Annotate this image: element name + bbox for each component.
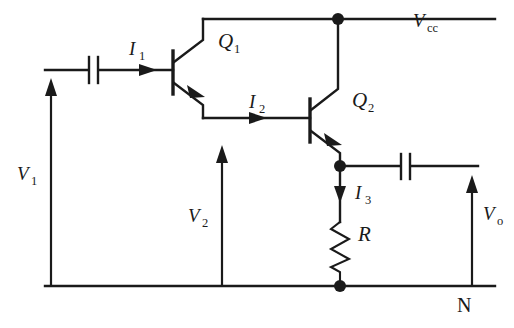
i1-symbol: I	[128, 38, 137, 59]
q2-symbol: Q	[352, 88, 367, 112]
q1-subscript: 1	[234, 42, 240, 56]
i1-label-group: I 1	[128, 38, 145, 63]
vo-symbol: V	[483, 203, 497, 224]
q2-subscript: 2	[368, 101, 374, 115]
i3-symbol: I	[354, 182, 363, 203]
circuit-diagram-canvas: V cc Q 1 Q 2 I 1 I 2 I 3 R	[0, 0, 514, 328]
vcc-subscript: cc	[427, 21, 439, 35]
i1-arrowhead	[139, 64, 157, 76]
vcc-label-group: V cc	[413, 10, 439, 35]
supply-rail-group	[203, 13, 495, 25]
resistor-zigzag	[331, 222, 349, 286]
v2-symbol: V	[188, 205, 202, 226]
q2-collector-lead	[311, 19, 338, 110]
resistor-branch-group	[331, 166, 349, 292]
i3-subscript: 3	[365, 193, 371, 207]
v2-subscript: 2	[202, 216, 208, 230]
vcc-symbol: V	[413, 10, 427, 31]
output-branch-group	[334, 154, 478, 179]
r-symbol: R	[357, 222, 371, 246]
v1-subscript: 1	[31, 174, 37, 188]
q1-symbol: Q	[218, 29, 233, 53]
vo-arrowhead	[466, 175, 478, 193]
q2-label-group: Q 2	[352, 88, 374, 115]
coupling-branch-group	[203, 112, 310, 124]
v2-arrowhead	[216, 145, 228, 163]
q1-collector-lead	[174, 19, 203, 62]
v1-symbol: V	[17, 163, 31, 184]
i2-subscript: 2	[259, 102, 265, 116]
vo-subscript: o	[497, 214, 503, 228]
n-label-group: N	[457, 294, 471, 316]
v2-label-group: V 2	[188, 205, 208, 230]
r-label-group: R	[357, 222, 371, 246]
q1-emitter-arrowhead	[187, 85, 205, 98]
i3-arrowhead	[334, 186, 346, 203]
q1-label-group: Q 1	[218, 29, 240, 56]
n-symbol: N	[457, 294, 471, 316]
circuit-schematic-svg: V cc Q 1 Q 2 I 1 I 2 I 3 R	[0, 0, 514, 328]
input-branch-group	[45, 57, 173, 83]
transistor-q2-group	[310, 19, 342, 166]
i1-subscript: 1	[139, 49, 145, 63]
i2-symbol: I	[248, 91, 257, 112]
i2-label-group: I 2	[248, 91, 265, 116]
vo-label-group: V o	[483, 203, 503, 228]
v1-label-group: V 1	[17, 163, 37, 188]
transistor-q1-group	[173, 19, 205, 118]
i3-label-group: I 3	[354, 182, 371, 207]
v1-arrowhead	[45, 78, 57, 96]
q2-emitter-arrowhead	[324, 133, 342, 146]
